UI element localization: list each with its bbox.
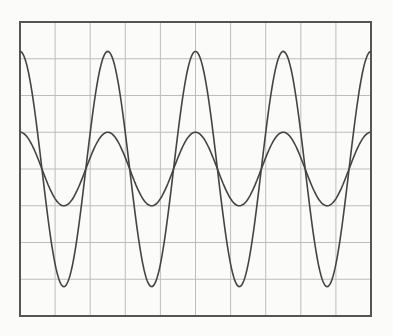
grid-lines (20, 22, 371, 316)
oscilloscope-screen (0, 0, 393, 336)
